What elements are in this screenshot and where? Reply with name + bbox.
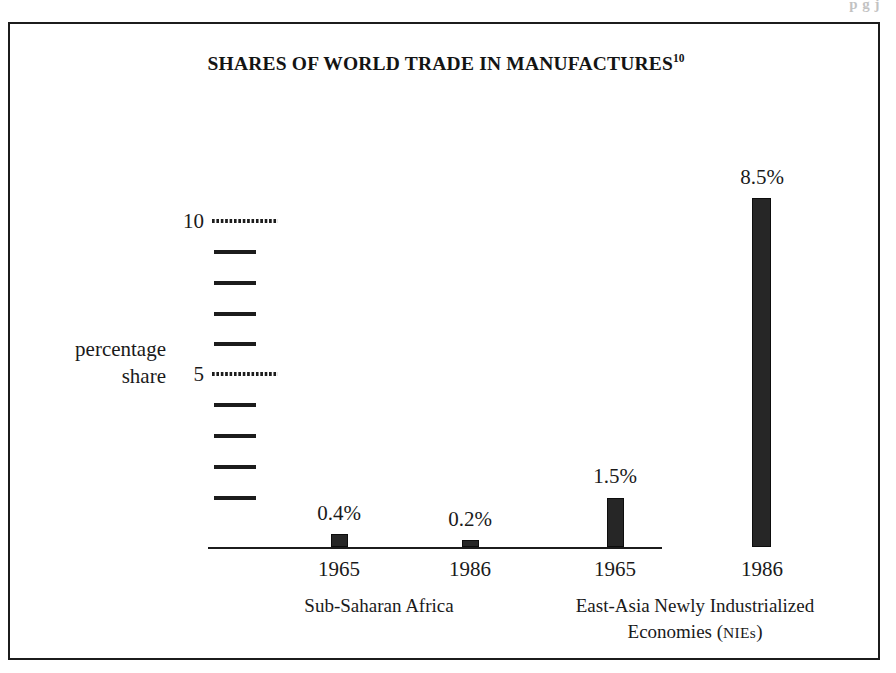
y-tick-label-5: 5 [162, 364, 204, 385]
x-tick-label-east-asia-nies-1965: 1965 [570, 559, 660, 580]
x-tick-label-sub-saharan-africa-1965: 1965 [294, 559, 384, 580]
group-label-east-asia-nies-line-2: Economies (NIEs) [530, 619, 860, 646]
group-label-east-asia-nies: East-Asia Newly Industrialized Economies… [530, 593, 860, 646]
bar-value-east-asia-nies-1986: 8.5% [717, 167, 807, 188]
bar-sub-saharan-africa-1986 [462, 540, 479, 547]
y-tick-minor-4 [214, 403, 256, 407]
bar-east-asia-nies-1986 [752, 198, 771, 547]
y-tick-minor-1 [214, 496, 256, 500]
plot-area: percentage share 10 5 0.4% 0.2% 1.5% 8.5… [10, 24, 882, 662]
x-axis-line [208, 547, 662, 549]
y-tick-minor-3 [214, 434, 256, 438]
y-tick-minor-2 [214, 465, 256, 469]
group-label-sub-saharan-africa: Sub-Saharan Africa [255, 593, 503, 619]
bar-value-east-asia-nies-1965: 1.5% [570, 466, 660, 487]
y-tick-minor-6 [214, 342, 256, 346]
y-axis-label-line-2: share [18, 363, 166, 390]
y-tick-minor-7 [214, 312, 256, 316]
y-tick-major-10 [212, 219, 278, 223]
y-tick-minor-8 [214, 281, 256, 285]
y-tick-label-10: 10 [162, 211, 204, 232]
x-tick-label-sub-saharan-africa-1986: 1986 [425, 559, 515, 580]
bar-value-sub-saharan-africa-1965: 0.4% [294, 503, 384, 524]
bar-value-sub-saharan-africa-1986: 0.2% [425, 509, 515, 530]
y-tick-minor-9 [214, 250, 256, 254]
bar-east-asia-nies-1965 [607, 498, 624, 547]
y-axis-label: percentage share [18, 336, 166, 390]
scan-edge-artifact: p g j [0, 0, 896, 14]
group-label-east-asia-nies-closeparen: ) [756, 621, 762, 642]
group-label-east-asia-nies-line-1: East-Asia Newly Industrialized [530, 593, 860, 619]
bar-sub-saharan-africa-1965 [331, 534, 348, 547]
figure-frame: SHARES OF WORLD TRADE IN MANUFACTURES10 … [8, 22, 880, 660]
group-label-east-asia-nies-economies: Economies ( [628, 621, 724, 642]
x-tick-label-east-asia-nies-1986: 1986 [717, 559, 807, 580]
group-label-nies-abbrev: NIEs [723, 624, 756, 641]
y-tick-major-5 [212, 372, 278, 376]
y-axis-label-line-1: percentage [18, 336, 166, 363]
